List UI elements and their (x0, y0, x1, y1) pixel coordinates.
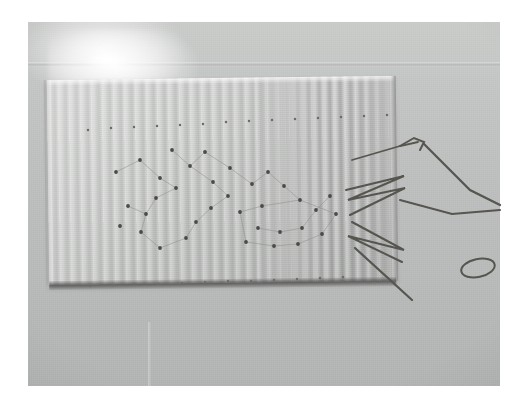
screenshot-canvas (0, 0, 522, 406)
backdrop-vertical-seam (148, 322, 151, 386)
specular-highlight-core (84, 50, 130, 70)
photo-caption (28, 390, 500, 402)
fabric-shading (47, 76, 396, 285)
fabric-swatch (47, 76, 396, 285)
